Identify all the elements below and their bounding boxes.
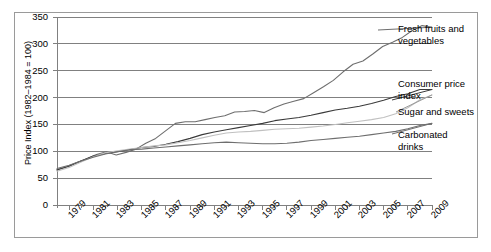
y-tick-label: 200 xyxy=(14,93,48,103)
y-tick-label: 250 xyxy=(14,66,48,76)
chart-figure: Price Index (1982–1984 = 100) 0501001502… xyxy=(0,0,491,252)
series-label-3: Carbonated drinks xyxy=(398,129,448,152)
series-line-3 xyxy=(57,123,432,168)
y-tick-label: 300 xyxy=(14,39,48,49)
y-tick-label: 0 xyxy=(14,200,48,210)
series-label-2: Sugar and sweets xyxy=(398,106,474,118)
y-tick-label: 350 xyxy=(14,12,48,22)
series-line-2 xyxy=(57,95,432,171)
series-label-1: Consumer price index xyxy=(398,78,465,101)
y-tick-label: 50 xyxy=(14,173,48,183)
series-line-1 xyxy=(57,90,432,171)
y-tick-label: 150 xyxy=(14,119,48,129)
series-label-0: Fresh fruits and vegetables xyxy=(398,23,464,46)
y-tick-label: 100 xyxy=(14,146,48,156)
